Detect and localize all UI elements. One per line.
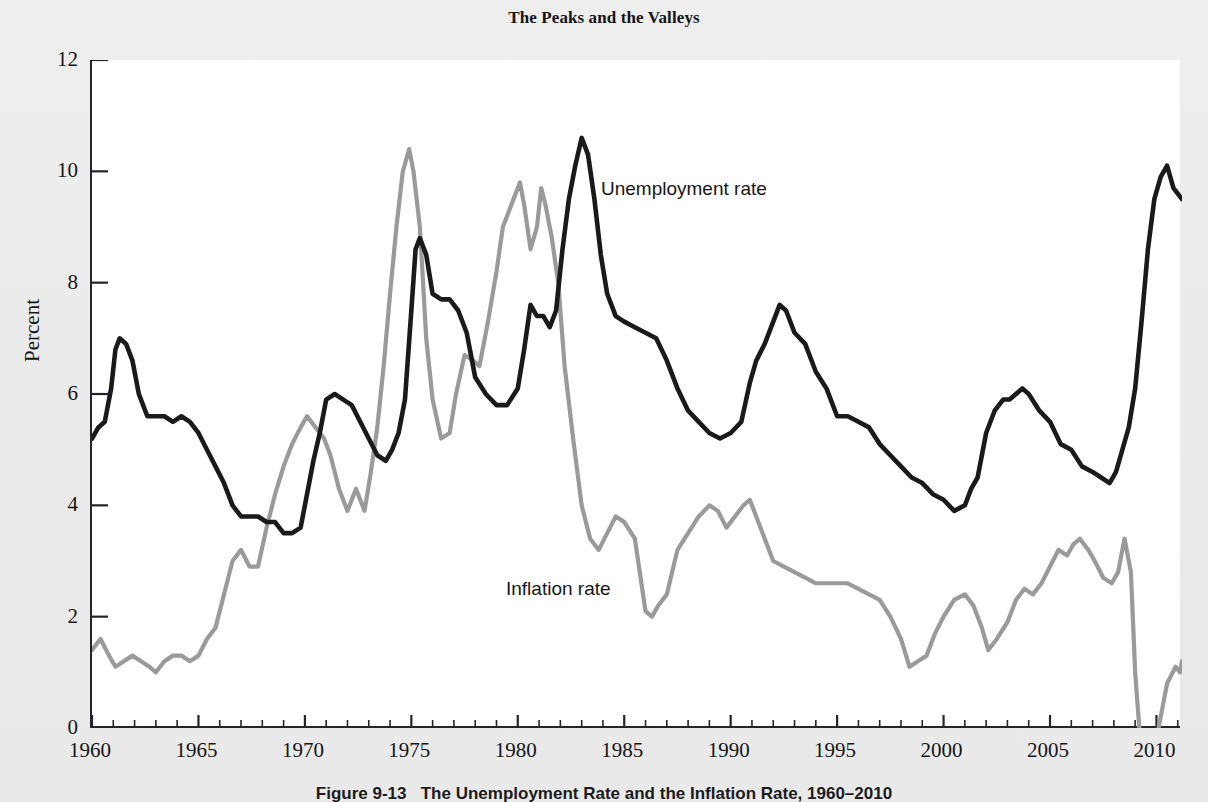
chart-title: The Peaks and the Valleys — [0, 8, 1208, 28]
y-tick-label: 6 — [32, 381, 78, 406]
y-tick-label: 12 — [32, 47, 78, 72]
x-tick-label: 1980 — [471, 738, 561, 763]
inflation-rate-line — [92, 149, 1182, 728]
y-tick-label: 8 — [32, 270, 78, 295]
chart-canvas — [92, 60, 1182, 728]
figure-caption: Figure 9-13 The Unemployment Rate and th… — [0, 784, 1208, 802]
x-tick-label: 1985 — [577, 738, 667, 763]
figure-caption-text: The Unemployment Rate and the Inflation … — [421, 784, 892, 802]
y-tick-label: 4 — [32, 492, 78, 517]
y-axis-major-ticks — [92, 60, 108, 728]
x-tick-label: 1975 — [364, 738, 454, 763]
y-tick-label: 2 — [32, 604, 78, 629]
unemployment-rate-annotation: Unemployment rate — [601, 178, 767, 200]
figure-number: Figure 9-13 — [316, 784, 407, 802]
plot-area — [90, 60, 1180, 728]
y-tick-label: 0 — [32, 715, 78, 740]
x-tick-label: 1970 — [258, 738, 348, 763]
inflation-rate-annotation: Inflation rate — [506, 578, 611, 600]
x-tick-label: 1965 — [151, 738, 241, 763]
x-tick-label: 1995 — [790, 738, 880, 763]
x-tick-label: 1990 — [684, 738, 774, 763]
y-tick-label: 10 — [32, 158, 78, 183]
x-tick-label: 2000 — [897, 738, 987, 763]
x-tick-label: 1960 — [45, 738, 135, 763]
figure-page: The Peaks and the Valleys Percent 024681… — [0, 0, 1208, 802]
x-tick-label: 2005 — [1003, 738, 1093, 763]
x-tick-label: 2010 — [1109, 738, 1199, 763]
x-axis-minor-ticks — [92, 715, 1178, 728]
